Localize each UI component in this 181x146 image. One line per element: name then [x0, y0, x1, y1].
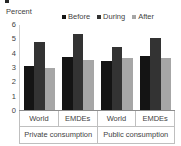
y-axis-tick-label: 6 [12, 21, 16, 29]
plot-area: 0123456 [19, 25, 175, 111]
bar-before [62, 57, 73, 110]
bar-groups [20, 25, 175, 110]
y-axis-tick-label: 1 [12, 93, 16, 101]
legend-label-after: After [138, 12, 154, 21]
legend-label-during: During [103, 12, 125, 21]
y-axis-tick-label: 4 [12, 50, 16, 58]
y-axis-tick-label: 2 [12, 79, 16, 87]
legend-item-after: After [132, 12, 154, 21]
cropped-marker-icon [5, 0, 9, 3]
bar-before [101, 61, 112, 110]
bar-group [98, 25, 137, 110]
legend-item-during: During [97, 12, 125, 21]
bar-group [59, 25, 98, 110]
bar-during [112, 47, 123, 110]
bar-after [161, 58, 172, 110]
bar-after [45, 68, 56, 111]
category-label: EMDEs [135, 111, 175, 127]
bar-group [20, 25, 59, 110]
legend-swatch-before [62, 15, 66, 19]
bar-during [73, 34, 84, 110]
group-label: Public consumption [97, 127, 176, 144]
bar-during [34, 42, 45, 110]
y-axis-tick-label: 5 [12, 36, 16, 44]
category-label: World [19, 111, 58, 127]
legend-label-before: Before [68, 12, 90, 21]
bar-after [83, 60, 94, 110]
category-label: World [97, 111, 136, 127]
bar-during [150, 38, 161, 110]
bar-before [24, 66, 35, 110]
bar-after [122, 58, 133, 110]
bar-before [140, 56, 151, 110]
category-label: EMDEs [58, 111, 97, 127]
chart-legend: Before During After [62, 12, 154, 21]
y-axis-title: Percent [6, 8, 32, 16]
group-label-row: Private consumptionPublic consumption [19, 127, 175, 144]
legend-swatch-during [97, 15, 101, 19]
bar-chart: Percent Before During After 0123456 Worl… [0, 0, 181, 146]
legend-swatch-after [132, 15, 136, 19]
y-axis-tick-label: 0 [12, 107, 16, 115]
y-axis-tick-label: 3 [12, 64, 16, 72]
category-label-row: WorldEMDEsWorldEMDEs [19, 111, 175, 127]
group-label: Private consumption [19, 127, 97, 144]
legend-item-before: Before [62, 12, 90, 21]
bar-group [136, 25, 175, 110]
